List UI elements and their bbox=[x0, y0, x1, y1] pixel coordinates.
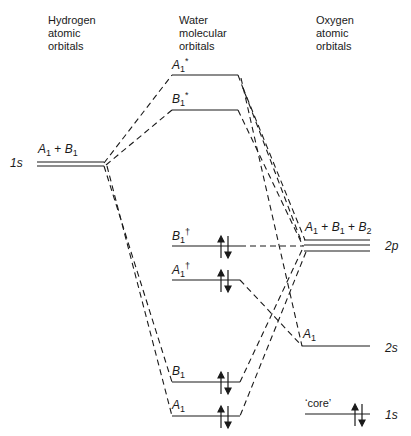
o-2p-symmetry-label: A1 + B1 + B2 bbox=[305, 220, 371, 236]
h-symmetry-label: A1 + B1 bbox=[38, 142, 78, 158]
mo-label-b1-star: B1* bbox=[172, 90, 189, 108]
mo-diagram-lines bbox=[0, 0, 411, 436]
mo-label-b1-dagger: B1† bbox=[172, 227, 190, 245]
o-2s-label: 2s bbox=[385, 341, 398, 355]
mo-label-a1: A1 bbox=[172, 398, 185, 414]
o-2s-symmetry-label: A1 bbox=[303, 327, 316, 343]
mo-label-b1: B1 bbox=[172, 364, 185, 380]
electron-pairs bbox=[218, 236, 365, 428]
electron-pair-a1-dagger bbox=[218, 270, 231, 292]
electron-pair-b1-dagger bbox=[218, 236, 231, 258]
electron-pair-o-core bbox=[352, 404, 365, 426]
electron-pair-b1 bbox=[218, 372, 231, 394]
electron-pair-a1 bbox=[218, 406, 231, 428]
h-1s-label: 1s bbox=[10, 156, 23, 170]
o-core-1s-label: 1s bbox=[385, 408, 398, 422]
o-core-tag: ‘core’ bbox=[305, 397, 331, 409]
mo-label-a1-dagger: A1† bbox=[172, 261, 190, 279]
o-2p-label: 2p bbox=[385, 239, 398, 253]
mo-label-a1-star: A1* bbox=[172, 56, 189, 74]
